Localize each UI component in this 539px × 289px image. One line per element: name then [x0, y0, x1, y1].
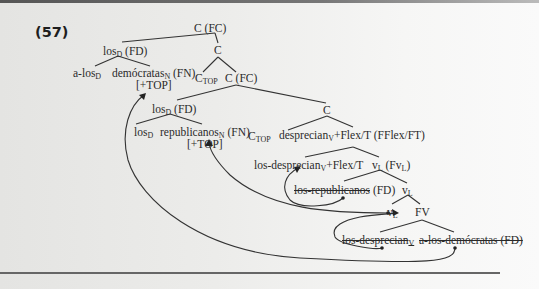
node-a-los: a-losD: [73, 67, 101, 79]
trace-los-republicanos: los-republicanos (FD): [294, 184, 395, 196]
node-ctop-1: CTOP: [195, 72, 218, 84]
node-c-2: C: [323, 104, 331, 116]
bottom-rule: [0, 272, 500, 274]
node-c-fc: C (FC): [225, 72, 257, 84]
feature-top-1: [+TOP]: [136, 79, 172, 91]
node-republicanos: republicanosN (FN): [160, 126, 250, 138]
node-vl-1: vL: [402, 184, 413, 196]
node-fv: FV: [415, 206, 430, 218]
node-desprecian-flex: desprecianV+Flex/T (FFlex/FT): [279, 129, 425, 141]
node-c: C: [214, 44, 222, 56]
trace-los-desprecian: los-desprecianV: [342, 234, 414, 246]
root-node: C (FC): [194, 22, 226, 34]
node-vl-fvl: vL (FvL): [372, 159, 410, 171]
node-los-d: losD: [134, 126, 153, 138]
node-los-fd: losD (FD): [103, 45, 147, 57]
feature-top-2: [+TOP]: [187, 138, 223, 150]
node-democratas: demócratasN (FN): [112, 67, 195, 79]
node-los-desprecian-flex: los-desprecianV+Flex/T: [254, 159, 363, 171]
node-los-fd-2: losD (FD): [152, 103, 196, 115]
node-ctop-2: CTOP: [248, 130, 271, 142]
trace-a-los-democratas: a-los-demócratas (FD): [419, 234, 523, 246]
node-vl-2: vL: [387, 206, 398, 218]
